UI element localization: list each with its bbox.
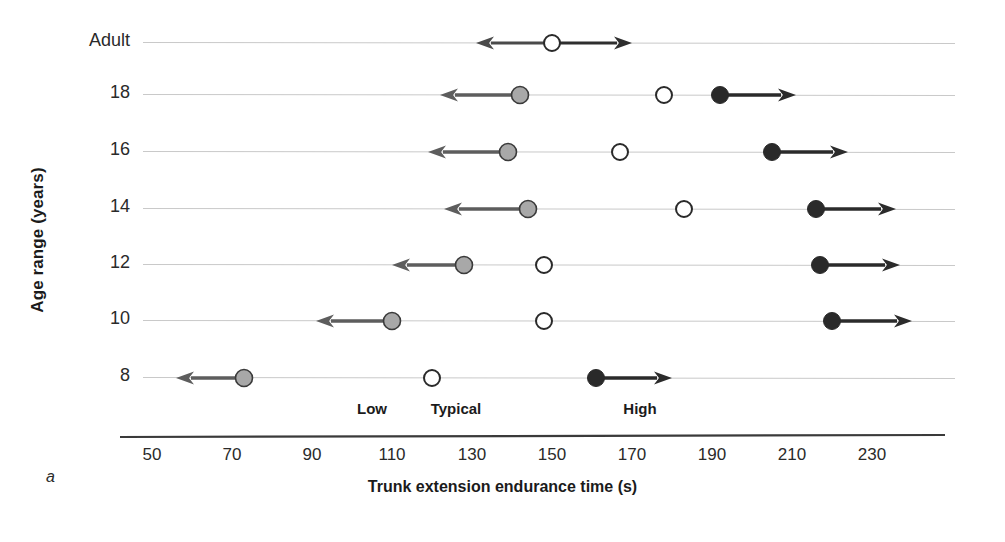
x-tick-label-150: 150: [512, 445, 592, 465]
x-tick-label-90: 90: [272, 445, 352, 465]
marker-high: [588, 370, 605, 387]
marker-low: [512, 87, 529, 104]
x-tick-label-230: 230: [832, 445, 912, 465]
y-tick-label-8: 8: [10, 365, 130, 386]
y-tick-label-10: 10: [10, 308, 130, 329]
x-axis-title: Trunk extension endurance time (s): [0, 478, 1005, 496]
x-tick-label-130: 130: [432, 445, 512, 465]
marker-typical: [536, 257, 552, 273]
zone-label-high: High: [560, 400, 720, 417]
marker-low: [384, 313, 401, 330]
row-baseline: [143, 378, 955, 379]
y-tick-label-12: 12: [10, 252, 130, 273]
marker-typical: [424, 370, 440, 386]
x-tick-label-50: 50: [112, 445, 192, 465]
marker-low: [520, 201, 537, 218]
x-tick-label-170: 170: [592, 445, 672, 465]
y-tick-label-14: 14: [10, 196, 130, 217]
marker-high: [764, 144, 781, 161]
marker-typical: [544, 35, 560, 51]
marker-high: [812, 257, 829, 274]
x-tick-label-110: 110: [352, 445, 432, 465]
marker-typical: [656, 87, 672, 103]
marker-low: [236, 370, 253, 387]
y-tick-label-18: 18: [10, 82, 130, 103]
row-baseline: [143, 95, 955, 96]
zone-label-typical: Typical: [376, 400, 536, 417]
panel-letter: a: [46, 468, 55, 486]
row-baseline: [143, 152, 955, 153]
marker-high: [824, 313, 841, 330]
x-tick-label-190: 190: [672, 445, 752, 465]
x-tick-label-210: 210: [752, 445, 832, 465]
marker-typical: [536, 313, 552, 329]
figure-panel-a: Age range (years) Adult18161412108 50709…: [0, 0, 1005, 542]
marker-typical: [612, 144, 628, 160]
marker-typical: [676, 201, 692, 217]
y-tick-label-16: 16: [10, 139, 130, 160]
x-axis-line: [120, 435, 945, 437]
y-tick-label-adult: Adult: [10, 30, 130, 51]
marker-low: [456, 257, 473, 274]
marker-low: [500, 144, 517, 161]
marker-high: [808, 201, 825, 218]
marker-high: [712, 87, 729, 104]
x-tick-label-70: 70: [192, 445, 272, 465]
